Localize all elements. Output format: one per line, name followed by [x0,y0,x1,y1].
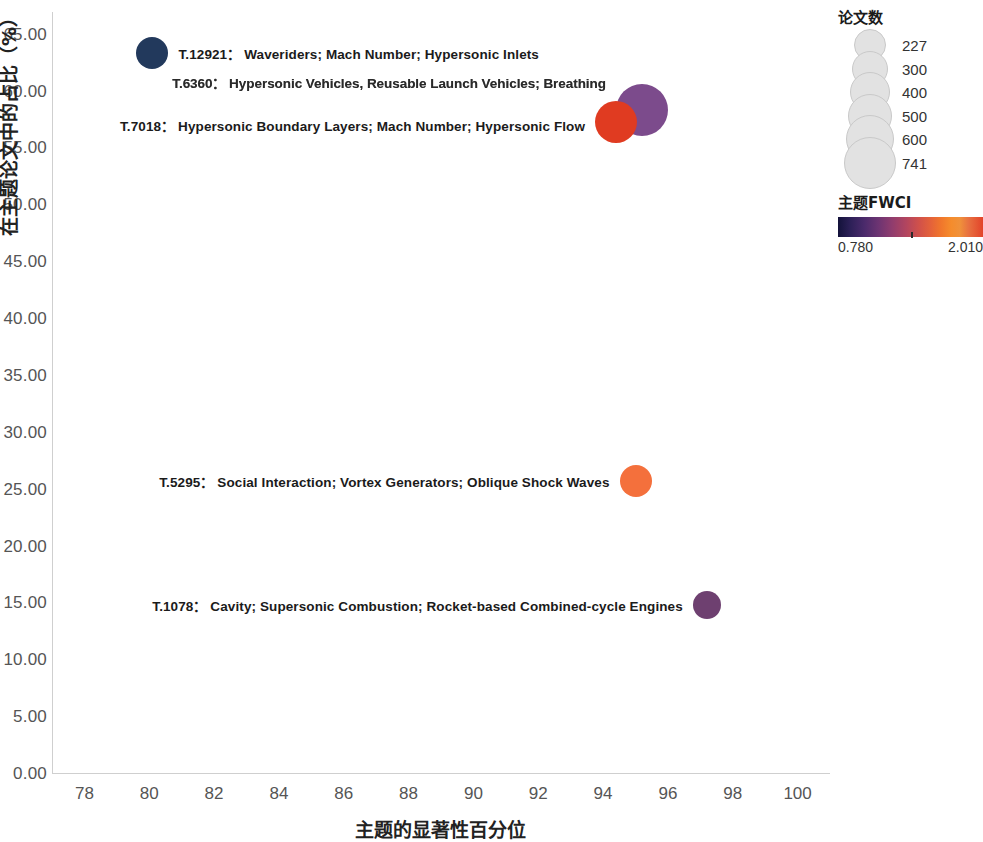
x-tick-label: 94 [594,784,613,804]
size-legend-label: 500 [902,107,927,124]
y-tick-label: 5.00 [13,707,47,727]
x-tick-label: 86 [334,784,353,804]
point-label-t-5295: T.5295： Social Interaction; Vortex Gener… [159,471,609,491]
color-bar-labels: 0.780 2.010 [838,239,983,259]
x-axis-title: 主题的显著性百分位 [0,815,880,842]
size-legend-label: 741 [902,154,927,171]
x-tick-label: 100 [783,784,811,804]
x-tick-label: 92 [529,784,548,804]
size-legend-circle [844,137,896,189]
size-legend-label: 227 [902,37,927,54]
y-tick-label: 0.00 [13,764,47,784]
x-tick-label: 78 [75,784,94,804]
y-tick-label: 35.00 [3,366,47,386]
x-axis-line [52,773,830,774]
x-tick-label: 88 [399,784,418,804]
size-legend-title: 论文数 [838,6,983,27]
y-axis-line [52,12,53,774]
color-bar-min-label: 0.780 [838,239,873,255]
x-tick-label: 98 [723,784,742,804]
color-bar-max-label: 2.010 [948,239,983,255]
point-label-t-6360: T.6360： Hypersonic Vehicles, Reusable La… [172,72,606,92]
y-tick-label: 30.00 [3,423,47,443]
y-tick-label: 10.00 [3,650,47,670]
y-tick-label: 20.00 [3,537,47,557]
bubble-t-7018[interactable] [595,101,637,143]
bubble-t-12921[interactable] [136,37,168,69]
y-tick-label: 45.00 [3,252,47,272]
bubble-t-1078[interactable] [693,591,721,619]
x-tick-label: 84 [269,784,288,804]
bubble-t-5295[interactable] [620,465,652,497]
size-legend-label: 400 [902,84,927,101]
x-tick-label: 96 [658,784,677,804]
y-tick-label: 40.00 [3,309,47,329]
y-tick-label: 25.00 [3,480,47,500]
color-bar [838,217,983,237]
point-label-t-1078: T.1078： Cavity; Supersonic Combustion; R… [152,595,683,615]
legend: 论文数 227300400500600741 主题FWCI 0.780 2.01… [838,6,983,259]
size-legend-label: 300 [902,60,927,77]
color-bar-ticker [911,232,913,238]
point-label-t-12921: T.12921： Waveriders; Mach Number; Hypers… [178,43,538,63]
x-tick-label: 90 [464,784,483,804]
y-tick-label: 15.00 [3,593,47,613]
color-legend-title: 主题FWCI [838,191,983,212]
size-legend: 227300400500600741 [838,29,983,177]
size-legend-label: 600 [902,131,927,148]
y-axis-title: 在主题论文中的占比（%） [0,8,21,236]
x-tick-label: 82 [205,784,224,804]
point-label-t-7018: T.7018： Hypersonic Boundary Layers; Mach… [120,115,585,135]
x-tick-label: 80 [140,784,159,804]
